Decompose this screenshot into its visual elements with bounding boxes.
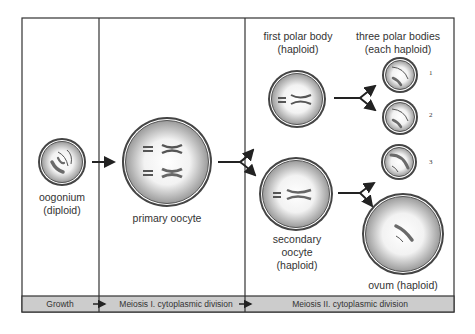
polar-body-number: 1 [429,69,433,77]
oogonium-ploidy-label: (diploid) [43,204,80,216]
ovum-cell [362,193,444,275]
secondary-oocyte-label: secondary [273,233,322,245]
oogonium-label: oogonium [39,191,85,203]
primary-oocyte-cell [122,117,212,207]
oogenesis-diagram: Growth Meiosis I. cytoplasmic division M… [0,0,475,334]
polar-body-number: 2 [429,111,433,119]
secondary-oocyte-ploidy-label: (haploid) [277,259,318,271]
primary-oocyte-label: primary oocyte [133,212,202,224]
ovum-label: ovum (haploid) [368,279,437,291]
secondary-oocyte-cell [259,157,333,231]
stage-label-meiosis-2: Meiosis II. cytoplasmic division [292,299,408,309]
polar-body-number: 3 [429,158,433,166]
secondary-oocyte-label-2: oocyte [282,246,313,258]
polar-body-3-cell [381,144,417,180]
stage-bar: Growth Meiosis I. cytoplasmic division M… [22,296,454,312]
first-polar-body-ploidy-label: (haploid) [278,43,319,55]
first-polar-body-label: first polar body [264,30,334,42]
first-polar-body-cell [268,70,326,128]
stage-label-growth: Growth [46,299,74,309]
stage-label-meiosis-1: Meiosis I. cytoplasmic division [119,299,233,309]
oogonium-cell [38,138,86,186]
polar-body-1-cell [382,57,418,93]
three-polar-bodies-label: three polar bodies [356,30,440,42]
polar-body-2-cell [382,99,418,135]
three-polar-bodies-ploidy-label: (each haploid) [365,43,432,55]
